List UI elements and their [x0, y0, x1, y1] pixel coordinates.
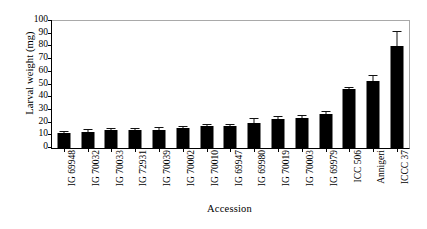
bar-group: [171, 21, 195, 148]
plot-area: [51, 20, 410, 149]
error-bar-cap: [107, 128, 116, 129]
bar: [153, 130, 166, 148]
x-axis-tick-label: IG 69947: [234, 150, 244, 186]
bar: [105, 130, 118, 148]
bar-group: [100, 21, 124, 148]
y-axis-tick-label: 40: [39, 91, 49, 101]
error-bar: [63, 132, 64, 133]
error-bar: [254, 119, 255, 122]
x-axis-tick-label: Annigeri: [376, 150, 386, 184]
error-bar: [111, 129, 112, 130]
x-axis-tick-label: IG 69979: [329, 150, 339, 186]
error-bar: [373, 76, 374, 80]
bar: [343, 89, 356, 148]
bar: [367, 81, 380, 148]
bar-group: [76, 21, 100, 148]
y-axis-tick-label: 100: [34, 15, 48, 25]
bar: [81, 132, 94, 149]
error-bar: [206, 125, 207, 126]
error-bar-cap: [297, 115, 306, 116]
bar-group: [147, 21, 171, 148]
error-bar-cap: [369, 75, 378, 76]
bar-group: [385, 21, 409, 148]
x-axis-tick-label: IG 70019: [281, 150, 291, 186]
y-axis-tick-label: 60: [39, 66, 49, 76]
error-bar: [349, 88, 350, 89]
error-bar: [278, 117, 279, 120]
error-bar-cap: [83, 129, 92, 130]
y-axis-tick-label: 10: [39, 130, 49, 140]
y-axis-tick-label: 70: [39, 53, 49, 63]
bar: [319, 114, 332, 148]
bar: [295, 118, 308, 148]
error-bar-cap: [250, 118, 259, 119]
error-bar-cap: [59, 131, 68, 132]
error-bar-cap: [178, 126, 187, 127]
bar-group: [338, 21, 362, 148]
error-bar-cap: [155, 127, 164, 128]
error-bar-cap: [131, 128, 140, 129]
x-axis-tick-label: IG 70033: [115, 150, 125, 186]
error-bar: [135, 129, 136, 130]
error-bar-cap: [345, 87, 354, 88]
error-bar-cap: [393, 31, 402, 32]
error-bar: [87, 130, 88, 132]
error-bar: [301, 116, 302, 119]
y-axis-tick-label: 80: [39, 41, 49, 51]
x-axis-tick-label: IG 69948: [67, 150, 77, 186]
bar-group: [219, 21, 243, 148]
x-axis-tick-label: IG 72931: [138, 150, 148, 186]
bar: [391, 46, 404, 148]
x-axis-tick-label: ICCC 37: [400, 150, 410, 184]
error-bar-cap: [226, 124, 235, 125]
bar: [224, 126, 237, 148]
x-axis-tick-label: ICC 506: [353, 150, 363, 182]
bar: [248, 123, 261, 148]
bar-group: [361, 21, 385, 148]
error-bar-cap: [321, 111, 330, 112]
y-axis-tick-label: 20: [39, 117, 49, 127]
bar-group: [195, 21, 219, 148]
error-bar: [325, 112, 326, 115]
x-axis-tick-label: IG 69980: [257, 150, 267, 186]
bar: [57, 133, 70, 148]
x-axis-tick-labels: IG 69948IG 70032IG 70033IG 72931IG 70039…: [51, 150, 408, 202]
bar: [200, 126, 213, 148]
bar: [129, 130, 142, 148]
y-axis-tick-label: 50: [39, 79, 49, 89]
bar: [176, 128, 189, 148]
error-bar: [397, 32, 398, 46]
bar-group: [123, 21, 147, 148]
error-bar-cap: [274, 116, 283, 117]
x-axis-tick-label: IG 70039: [162, 150, 172, 186]
bar-group: [314, 21, 338, 148]
plot-inner: [52, 21, 409, 148]
bar-group: [242, 21, 266, 148]
error-bar-cap: [202, 124, 211, 125]
bar-group: [52, 21, 76, 148]
x-axis-tick-label: IG 70010: [210, 150, 220, 186]
bar: [272, 119, 285, 148]
x-axis-tick-label: IG 70003: [305, 150, 315, 186]
y-axis-tick-labels: 0102030405060708090100: [26, 14, 48, 154]
x-axis-title: Accession: [51, 203, 408, 214]
x-axis-tick-label: IG 70002: [186, 150, 196, 186]
error-bar: [230, 125, 231, 127]
x-axis-tick-label: IG 70032: [91, 150, 101, 186]
bar-group: [290, 21, 314, 148]
y-axis-tick-label: 30: [39, 104, 49, 114]
bar-group: [266, 21, 290, 148]
error-bar: [159, 128, 160, 129]
chart-figure: Larval weight (mg) 010203040506070809010…: [0, 0, 427, 229]
y-axis-tick-label: 90: [39, 28, 49, 38]
error-bar: [182, 127, 183, 128]
